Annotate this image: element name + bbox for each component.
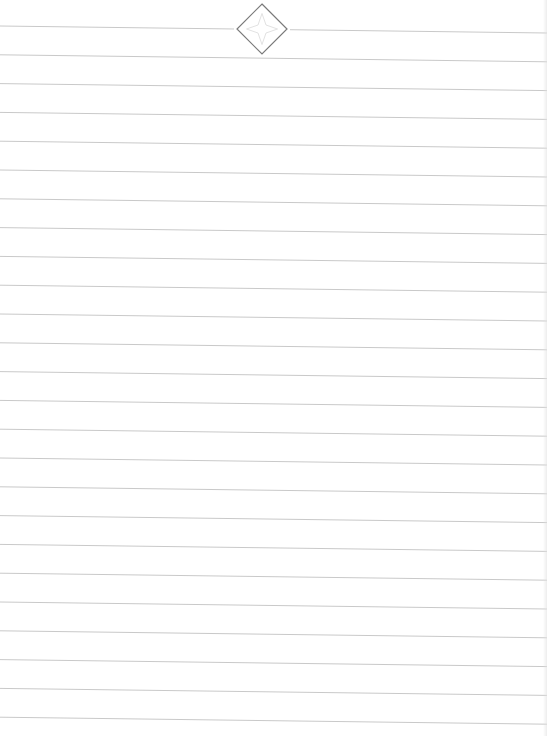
ruled-line (0, 170, 547, 177)
ruled-line (0, 429, 547, 436)
ruled-line (0, 400, 547, 407)
ruled-line (0, 372, 547, 379)
ruled-line (0, 256, 547, 263)
ruled-line (0, 688, 547, 695)
ruled-lines (0, 0, 547, 736)
ruled-line (0, 516, 547, 523)
diamond-star-ornament-icon (237, 4, 287, 54)
ruled-line (0, 141, 547, 148)
ruled-line (0, 631, 547, 638)
ruled-line (0, 343, 547, 350)
ruled-line (0, 228, 547, 235)
ruled-line (0, 487, 547, 494)
ruled-line (0, 314, 547, 321)
ruled-line (0, 573, 547, 580)
ruled-line (0, 55, 547, 62)
ruled-line (0, 285, 547, 292)
ruled-line (290, 30, 547, 33)
ruled-line (0, 84, 547, 91)
ruled-line (0, 458, 547, 465)
ruled-line (0, 112, 547, 119)
ruled-line-group (0, 26, 547, 724)
ruled-line (0, 602, 547, 609)
ruled-line (0, 717, 547, 724)
ruled-line (0, 199, 547, 206)
ruled-line (0, 26, 234, 29)
page-edge-shadow (543, 0, 547, 736)
diamond-frame (237, 4, 287, 54)
notepaper-page: Lined notepaper (0, 0, 547, 736)
ruled-line (0, 544, 547, 551)
ruled-line (0, 660, 547, 667)
